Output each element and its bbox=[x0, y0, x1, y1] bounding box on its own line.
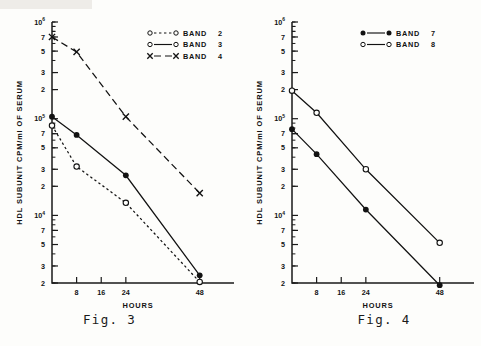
y-tick-label: 104 bbox=[34, 210, 45, 220]
data-point-band-3 bbox=[74, 132, 80, 138]
data-point-band-4 bbox=[197, 190, 203, 196]
y-tick-label: 2 bbox=[281, 279, 285, 288]
legend-series-number: 4 bbox=[218, 52, 223, 61]
series-line-band-4 bbox=[52, 37, 200, 193]
data-point-band-8 bbox=[289, 88, 294, 93]
legend-marker bbox=[361, 42, 365, 46]
y-tick-label: 106 bbox=[274, 16, 285, 26]
y-axis-label: HDL SUBUNIT CPM/ml OF SERUM bbox=[15, 80, 24, 224]
data-point-band-3 bbox=[123, 172, 129, 178]
x-tick-label: 48 bbox=[436, 288, 444, 297]
figure-4-plot: 1067532105753210475328162448HOURSHDL SUB… bbox=[243, 0, 481, 310]
y-tick-label: 5 bbox=[281, 47, 285, 56]
data-point-band-3 bbox=[197, 272, 203, 278]
data-point-band-2 bbox=[197, 279, 202, 284]
legend-marker bbox=[361, 31, 366, 36]
legend-label: BAND bbox=[396, 29, 420, 38]
legend-series-number: 7 bbox=[431, 29, 436, 38]
data-point-band-8 bbox=[437, 240, 442, 245]
y-tick-label: 7 bbox=[41, 33, 45, 42]
x-tick-label: 16 bbox=[97, 288, 105, 297]
y-tick-label: 3 bbox=[281, 68, 285, 77]
y-tick-label: 5 bbox=[41, 143, 45, 152]
figure-3-caption: Fig. 3 bbox=[0, 312, 231, 327]
figure-4-caption: Fig. 4 bbox=[265, 312, 481, 327]
legend-marker bbox=[173, 53, 178, 58]
data-point-band-2 bbox=[123, 200, 128, 205]
y-tick-label: 3 bbox=[41, 262, 45, 271]
x-tick-label: 24 bbox=[362, 288, 370, 297]
data-point-band-7 bbox=[314, 151, 320, 157]
y-tick-label: 3 bbox=[281, 165, 285, 174]
data-point-band-2 bbox=[49, 123, 54, 128]
legend-marker bbox=[174, 42, 178, 46]
y-tick-label: 2 bbox=[281, 182, 285, 191]
data-point-band-7 bbox=[289, 126, 295, 132]
data-point-band-7 bbox=[437, 282, 443, 288]
x-tick-label: 48 bbox=[196, 288, 204, 297]
y-tick-label: 3 bbox=[41, 165, 45, 174]
axis-lines bbox=[52, 22, 234, 283]
data-point-band-4 bbox=[123, 114, 129, 120]
data-point-band-7 bbox=[363, 207, 369, 213]
figure-4: 1067532105753210475328162448HOURSHDL SUB… bbox=[243, 0, 481, 346]
x-tick-label: 16 bbox=[337, 288, 345, 297]
y-tick-label: 3 bbox=[281, 262, 285, 271]
figure-pair: 1067532105753210475328162448HOURSHDL SUB… bbox=[0, 0, 481, 346]
y-tick-label: 2 bbox=[41, 182, 45, 191]
figure-3: 1067532105753210475328162448HOURSHDL SUB… bbox=[0, 0, 243, 346]
x-tick-label: 8 bbox=[315, 288, 319, 297]
y-tick-label: 5 bbox=[41, 240, 45, 249]
data-point-band-2 bbox=[74, 164, 79, 169]
y-tick-label: 5 bbox=[281, 240, 285, 249]
y-tick-label: 7 bbox=[281, 33, 285, 42]
legend-label: BAND bbox=[183, 29, 207, 38]
x-axis-label: HOURS bbox=[122, 301, 153, 310]
y-tick-label: 2 bbox=[281, 85, 285, 94]
legend-label: BAND bbox=[183, 40, 207, 49]
legend-series-number: 2 bbox=[218, 29, 223, 38]
y-tick-label: 3 bbox=[41, 68, 45, 77]
data-point-band-8 bbox=[363, 167, 368, 172]
legend-label: BAND bbox=[396, 40, 420, 49]
y-axis-label: HDL SUBUNIT CPM/ml OF SERUM bbox=[255, 80, 264, 224]
y-tick-label: 104 bbox=[274, 210, 285, 220]
y-tick-label: 7 bbox=[281, 129, 285, 138]
x-axis-label: HOURS bbox=[362, 301, 393, 310]
legend-marker bbox=[147, 53, 152, 58]
legend-series-number: 3 bbox=[218, 40, 223, 49]
x-tick-label: 8 bbox=[75, 288, 79, 297]
legend-marker bbox=[387, 42, 391, 46]
y-tick-label: 105 bbox=[274, 113, 285, 123]
figure-3-plot: 1067532105753210475328162448HOURSHDL SUB… bbox=[0, 0, 243, 310]
legend-marker bbox=[174, 31, 178, 35]
legend-label: BAND bbox=[183, 52, 207, 61]
y-tick-label: 7 bbox=[281, 226, 285, 235]
y-tick-label: 7 bbox=[41, 129, 45, 138]
y-tick-label: 105 bbox=[34, 113, 45, 123]
legend-series-number: 8 bbox=[431, 40, 436, 49]
axis-lines bbox=[292, 22, 474, 283]
y-tick-label: 106 bbox=[34, 16, 45, 26]
y-tick-label: 5 bbox=[281, 143, 285, 152]
data-point-band-4 bbox=[74, 49, 80, 55]
y-tick-label: 7 bbox=[41, 226, 45, 235]
data-point-band-3 bbox=[49, 114, 55, 120]
series-line-band-3 bbox=[52, 117, 200, 276]
y-tick-label: 2 bbox=[41, 279, 45, 288]
x-tick-label: 24 bbox=[122, 288, 130, 297]
legend-marker bbox=[387, 31, 392, 36]
y-tick-label: 5 bbox=[41, 47, 45, 56]
legend-marker bbox=[148, 42, 152, 46]
legend-marker bbox=[148, 31, 152, 35]
data-point-band-8 bbox=[314, 110, 319, 115]
y-tick-label: 2 bbox=[41, 85, 45, 94]
